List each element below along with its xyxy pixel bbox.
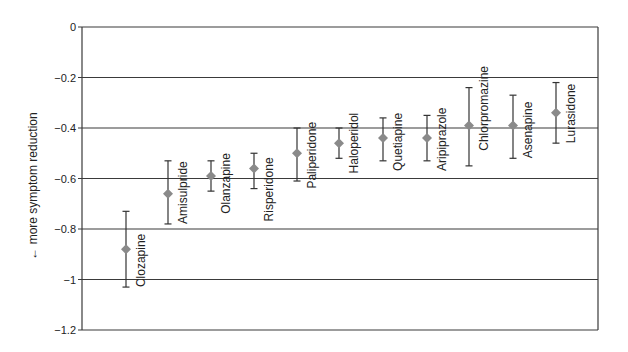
data-point-chlorpromazine [464,88,474,166]
diamond-marker-icon [422,133,432,143]
category-label: Olanzapine [219,153,233,214]
data-point-clozapine [121,211,131,287]
diamond-marker-icon [334,138,344,148]
y-tick-label: −0.2 [54,72,76,84]
category-label: Aripiprazole [435,107,449,171]
data-point-quetiapine [378,118,388,161]
y-tick-label: −0.4 [54,122,76,134]
y-tick-label: −1.2 [54,324,76,336]
data-point-paliperidone [292,128,302,181]
diamond-marker-icon [206,171,216,181]
gridlines [78,27,598,330]
data-point-lurasidone [551,83,561,144]
y-axis-title: ← more symptom reduction [26,112,40,259]
chart: 0−0.2−0.4−0.6−0.8−1−1.2 ClozapineAmisulp… [0,0,628,352]
diamond-marker-icon [163,189,173,199]
data-point-risperidone [249,153,259,188]
diamond-marker-icon [292,148,302,158]
data-point-aripiprazole [422,115,432,160]
category-label: Asenapine [521,101,535,158]
category-label: Lurasidone [564,83,578,143]
y-tick-label: 0 [70,21,76,33]
diamond-marker-icon [249,163,259,173]
category-label: Quetiapine [391,113,405,171]
y-tick-label: −1 [63,274,76,286]
category-label: Chlorpromazine [477,66,491,151]
y-axis-tick-labels: 0−0.2−0.4−0.6−0.8−1−1.2 [54,21,76,336]
category-labels: ClozapineAmisulprideOlanzapineRisperidon… [134,66,578,287]
diamond-marker-icon [508,120,518,130]
category-label: Risperidone [262,157,276,221]
category-label: Haloperidol [347,113,361,174]
diamond-marker-icon [551,108,561,118]
category-label: Amisulpride [176,161,190,224]
diamond-marker-icon [378,133,388,143]
diamond-marker-icon [464,120,474,130]
data-point-olanzapine [206,161,216,191]
diamond-marker-icon [121,244,131,254]
category-label: Clozapine [134,233,148,287]
data-point-haloperidol [334,128,344,158]
data-point-asenapine [508,95,518,158]
y-tick-label: −0.8 [54,223,76,235]
category-label: Paliperidone [305,122,319,189]
data-point-amisulpride [163,161,173,224]
y-tick-label: −0.6 [54,173,76,185]
